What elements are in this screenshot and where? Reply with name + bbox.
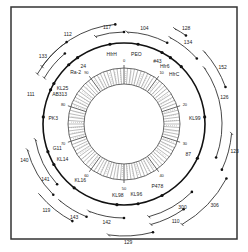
arc-start-tick bbox=[38, 193, 41, 196]
scale-minute-label: 40 bbox=[159, 173, 164, 178]
scale-tick bbox=[75, 143, 89, 151]
gene-label-mark bbox=[142, 75, 147, 86]
scale-tick bbox=[161, 139, 176, 145]
scale-tick bbox=[163, 114, 179, 117]
origin-marker-dot bbox=[196, 157, 199, 160]
strain-label: 24 bbox=[80, 63, 86, 69]
scale-tick bbox=[97, 75, 105, 89]
scale-tick bbox=[159, 97, 173, 105]
scale-tick bbox=[100, 73, 107, 87]
scale-tick bbox=[117, 68, 119, 84]
arc-strain-label: 133 bbox=[39, 53, 48, 59]
arc-strain-label: 117 bbox=[103, 24, 111, 30]
scale-tick bbox=[131, 163, 134, 179]
arc-arrowhead bbox=[221, 168, 224, 171]
origin-marker-dot bbox=[46, 150, 49, 153]
arc-arrowhead bbox=[64, 52, 67, 55]
arc-strain-label: 119 bbox=[42, 207, 50, 213]
arc-start-tick bbox=[173, 27, 176, 30]
scale-tick bbox=[163, 131, 179, 134]
scale-tick bbox=[73, 100, 87, 107]
gene-label-mark bbox=[79, 147, 89, 154]
transfer-arc bbox=[96, 32, 124, 37]
scale-minute-label: 30 bbox=[183, 141, 188, 146]
figure-frame bbox=[11, 7, 237, 239]
origin-marker-dot bbox=[115, 203, 118, 206]
scale-tick bbox=[139, 72, 145, 87]
gene-label-mark bbox=[134, 72, 137, 84]
arc-strain-label: 123 bbox=[230, 148, 239, 154]
origin-marker-dot bbox=[108, 43, 111, 46]
arc-arrowhead bbox=[52, 193, 55, 196]
genetic-map-figure: 0102030405060708090HfrHPEO#43Hfr6HfrC24R… bbox=[0, 0, 248, 252]
origin-marker-dot bbox=[136, 43, 139, 46]
gene-label-mark bbox=[78, 95, 88, 101]
transfer-arc bbox=[89, 211, 124, 218]
scale-tick bbox=[164, 117, 180, 119]
arc-strain-label: 306 bbox=[210, 202, 219, 208]
strain-label: G11 bbox=[53, 145, 62, 151]
scale-minute-label: 0 bbox=[123, 58, 126, 63]
transfer-arc bbox=[127, 32, 167, 43]
origin-marker-dot bbox=[76, 56, 79, 59]
arc-arrowhead bbox=[114, 23, 117, 26]
strain-label: KL96 bbox=[130, 191, 142, 197]
scale-tick bbox=[158, 145, 172, 154]
scale-tick bbox=[164, 127, 180, 128]
strain-label: KL99 bbox=[189, 115, 201, 121]
arc-arrowhead bbox=[196, 57, 199, 60]
arc-strain-label: 142 bbox=[102, 219, 111, 225]
transfer-arc bbox=[108, 232, 153, 236]
gene-label-mark bbox=[104, 74, 108, 85]
scale-tick bbox=[160, 141, 174, 148]
arc-arrowhead bbox=[215, 156, 218, 159]
scale-tick bbox=[129, 164, 131, 180]
scale-tick bbox=[103, 72, 109, 87]
arc-arrowhead bbox=[225, 177, 228, 180]
scale-tick bbox=[72, 103, 87, 109]
gene-label-mark bbox=[146, 78, 152, 88]
scale-minute-label: 80 bbox=[61, 102, 66, 107]
arc-start-tick bbox=[203, 50, 206, 53]
gene-label-mark bbox=[95, 160, 101, 170]
strain-label: KL98 bbox=[112, 192, 124, 198]
arc-strain-label: 104 bbox=[140, 25, 149, 31]
strain-label: Hfr6 bbox=[160, 63, 170, 69]
arc-strain-label: 141 bbox=[41, 176, 50, 182]
circular-map-diagram: 0102030405060708090HfrHPEO#43Hfr6HfrC24R… bbox=[0, 0, 248, 252]
scale-minute-label: 10 bbox=[159, 70, 164, 75]
strain-label: HfrH bbox=[107, 51, 118, 57]
strain-label: AB313 bbox=[52, 91, 67, 97]
scale-tick bbox=[160, 100, 174, 107]
scale-tick bbox=[139, 161, 145, 176]
inner-scale-outer-circle bbox=[68, 68, 180, 180]
origin-marker-dot bbox=[136, 202, 139, 205]
gene-label-mark bbox=[100, 162, 105, 173]
scale-tick bbox=[114, 69, 117, 85]
arc-arrowhead bbox=[166, 41, 169, 44]
scale-tick bbox=[120, 164, 121, 180]
arc-strain-label: 112 bbox=[64, 31, 72, 37]
origin-marker-dot bbox=[203, 115, 206, 118]
origin-marker-dot bbox=[180, 65, 183, 68]
origin-marker-dot bbox=[160, 194, 163, 197]
gene-label-mark bbox=[111, 165, 114, 177]
gene-label-mark bbox=[156, 89, 165, 97]
scale-tick bbox=[68, 129, 84, 131]
gene-label-mark bbox=[89, 83, 97, 92]
arc-strain-label: 129 bbox=[124, 239, 133, 245]
arc-start-tick bbox=[169, 36, 172, 39]
scale-tick bbox=[100, 160, 107, 174]
transfer-arc bbox=[182, 179, 226, 225]
gene-label-mark bbox=[109, 72, 112, 84]
origin-marker-dot bbox=[160, 51, 163, 54]
scale-tick bbox=[68, 120, 84, 121]
arc-arrowhead bbox=[185, 34, 188, 37]
gene-label-mark bbox=[75, 100, 86, 105]
origin-marker-dot bbox=[169, 56, 172, 59]
scale-tick bbox=[158, 94, 172, 103]
gene-label-mark bbox=[165, 134, 177, 137]
scale-tick bbox=[103, 161, 109, 176]
arc-arrowhead bbox=[152, 231, 155, 234]
scale-tick bbox=[131, 69, 134, 85]
